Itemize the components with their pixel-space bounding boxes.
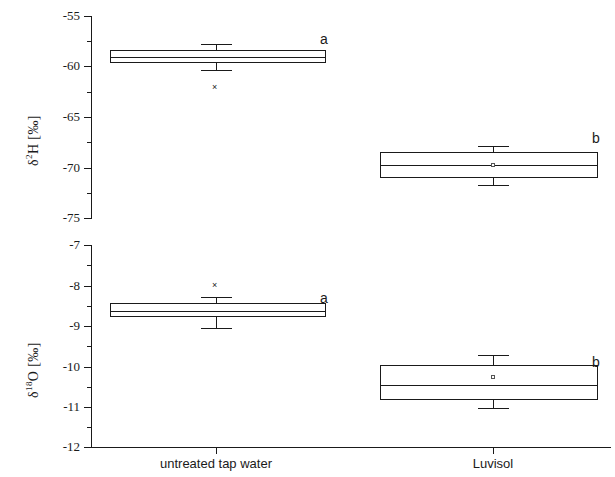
whisker-cap-lower	[201, 70, 232, 71]
y-axis-label-d2h-rest: H [‰]	[26, 115, 41, 154]
y-axis-line-bottom	[91, 245, 92, 448]
y-ticklabel: -10	[42, 359, 80, 375]
y-axis-line-top	[91, 16, 92, 219]
y-ticklabel: -8	[42, 278, 80, 294]
mean-marker	[491, 375, 495, 379]
group-letter-a-bottom: a	[320, 290, 328, 306]
group-letter-b-bottom: b	[592, 354, 600, 370]
y-tick-minor	[87, 265, 91, 266]
y-ticklabel: -60	[42, 58, 80, 74]
y-ticklabel: -65	[42, 109, 80, 125]
y-tick-major	[84, 407, 91, 408]
whisker-cap-upper	[201, 44, 232, 45]
y-axis-label-d2h-symbol: δ	[26, 159, 41, 166]
y-tick-major	[84, 16, 91, 17]
y-tick-minor	[87, 41, 91, 42]
panel-delta-2H: δ2H [‰] -55 -60 -65 -70 -75 × a	[0, 0, 615, 232]
box-iqr	[380, 365, 598, 400]
y-tick-major	[84, 447, 91, 448]
y-ticklabel: -75	[42, 210, 80, 226]
median-line	[380, 385, 598, 386]
x-axis-line	[91, 447, 611, 448]
median-line	[380, 165, 598, 166]
whisker-cap-upper	[201, 297, 232, 298]
y-tick-major	[84, 66, 91, 67]
y-axis-label-d18o-rest: O [‰]	[26, 342, 41, 381]
y-tick-minor	[87, 142, 91, 143]
y-tick-major	[84, 168, 91, 169]
median-line	[110, 311, 326, 312]
y-tick-minor	[87, 387, 91, 388]
y-tick-major	[84, 367, 91, 368]
y-tick-major	[84, 218, 91, 219]
group-letter-a-top: a	[320, 31, 328, 47]
x-tick-tapwater	[216, 447, 217, 454]
y-tick-minor	[87, 427, 91, 428]
y-ticklabel: -12	[42, 439, 80, 455]
whisker-cap-upper	[478, 146, 509, 147]
whisker-cap-lower	[478, 185, 509, 186]
y-axis-label-d2h: δ2H [‰]	[24, 115, 42, 166]
whisker-stem-lower	[493, 400, 494, 408]
y-tick-major	[84, 117, 91, 118]
y-ticklabel: -55	[42, 8, 80, 24]
boxplot-figure: δ2H [‰] -55 -60 -65 -70 -75 × a	[0, 0, 615, 477]
y-ticklabel: -11	[42, 399, 80, 415]
panel-delta-18O: δ18O [‰] -7 -8 -9 -10 -11 -12 ×	[0, 232, 615, 477]
y-ticklabel: -7	[42, 237, 80, 253]
x-axis-label-luvisol: Luvisol	[433, 456, 553, 471]
mean-marker	[491, 163, 495, 167]
x-tick-luvisol	[493, 447, 494, 454]
group-letter-b-top: b	[592, 130, 600, 146]
whisker-cap-lower	[201, 328, 232, 329]
whisker-cap-lower	[478, 408, 509, 409]
y-tick-major	[84, 245, 91, 246]
whisker-stem-lower	[216, 317, 217, 328]
median-line	[110, 57, 326, 58]
y-tick-major	[84, 286, 91, 287]
x-axis-label-tapwater: untreated tap water	[136, 456, 296, 471]
y-axis-label-d18o-symbol: δ	[26, 391, 41, 398]
y-axis-label-d18o-sup: 18	[24, 381, 34, 391]
outlier-marker: ×	[212, 83, 217, 92]
y-axis-label-d2h-sup: 2	[24, 154, 34, 159]
whisker-stem-upper	[493, 355, 494, 365]
y-axis-label-d18o: δ18O [‰]	[24, 342, 42, 398]
y-tick-minor	[87, 92, 91, 93]
y-tick-minor	[87, 193, 91, 194]
y-tick-major	[84, 326, 91, 327]
y-tick-minor	[87, 306, 91, 307]
outlier-marker: ×	[212, 281, 217, 290]
box-iqr	[110, 303, 326, 317]
y-ticklabel: -70	[42, 160, 80, 176]
y-tick-minor	[87, 346, 91, 347]
y-ticklabel: -9	[42, 318, 80, 334]
whisker-cap-upper	[478, 355, 509, 356]
